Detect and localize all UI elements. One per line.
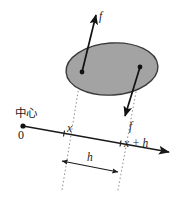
- tick-x-plus-h: [120, 141, 121, 147]
- tick-x: [64, 131, 65, 137]
- force-up-label: f: [99, 10, 104, 23]
- region-ellipse: [64, 40, 159, 98]
- force-down-label: f: [129, 120, 134, 133]
- point-right-dot: [138, 65, 143, 70]
- h-label: h: [87, 151, 93, 163]
- diagram-svg: 中心 0 x x + h h f f: [0, 0, 176, 199]
- point-left-dot: [80, 70, 85, 75]
- figure-canvas: 中心 0 x x + h h f f: [0, 0, 176, 199]
- center-label: 中心: [15, 106, 38, 120]
- origin-label: 0: [18, 128, 24, 142]
- x-label: x: [66, 122, 73, 134]
- x-plus-h-label: x + h: [123, 137, 149, 149]
